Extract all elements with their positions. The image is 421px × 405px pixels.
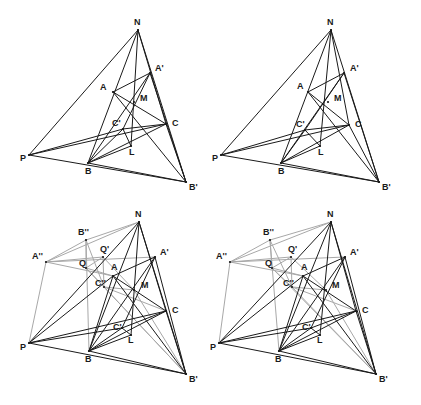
point-label-A: A — [301, 262, 308, 272]
segment-L-B — [89, 335, 131, 351]
vertex-P — [28, 154, 30, 156]
segment-P-Bp — [219, 343, 376, 374]
segment-N-L — [131, 30, 138, 146]
point-label-N: N — [135, 209, 142, 219]
point-label-A: A — [100, 82, 107, 92]
point-label-A: A — [111, 262, 118, 272]
vertex-C — [165, 310, 167, 312]
point-label-P: P — [20, 342, 26, 352]
segment-App-Bpp — [230, 240, 270, 262]
point-label-P: P — [212, 153, 218, 163]
vertex-C — [165, 123, 167, 125]
point-label-App: A'' — [32, 251, 43, 261]
vertex-Qp — [290, 256, 292, 258]
panel-top-left-canvas: NAA'MCC'LPBB' — [0, 0, 210, 202]
vertex-N — [330, 221, 332, 223]
vertex-M — [327, 101, 329, 103]
vertex-P — [220, 154, 222, 156]
vertex-App — [229, 261, 231, 263]
point-label-Cpp: C'' — [283, 278, 294, 288]
point-label-Ap: A' — [350, 63, 359, 73]
point-label-Cp: C' — [302, 322, 311, 332]
point-label-Qp: Q' — [100, 244, 109, 254]
segment-N-App — [230, 222, 331, 262]
point-label-B: B — [85, 354, 92, 364]
vertex-Bpp — [269, 239, 271, 241]
vertex-P — [28, 342, 30, 344]
point-label-P: P — [20, 153, 26, 163]
vertex-Ap — [344, 256, 346, 258]
point-label-Q: Q — [265, 258, 272, 268]
vertex-Ap — [149, 72, 151, 74]
vertex-A — [307, 91, 309, 93]
segment-Ap-B — [279, 257, 345, 351]
vertex-Qp — [102, 256, 104, 258]
vertex-Cp — [122, 128, 124, 130]
point-label-L: L — [128, 335, 134, 345]
segment-B-Bp — [281, 163, 379, 182]
point-label-C: C — [362, 305, 369, 315]
panel-top-left-labels: NAA'MCC'LPBB' — [20, 17, 198, 192]
point-label-Bp: B' — [379, 374, 388, 384]
segment-App-Ap — [46, 257, 155, 262]
panel-bottom-right-canvas: NB''A''Q'A'QAC''MCC'LPBB' — [210, 205, 421, 405]
point-label-P: P — [210, 342, 216, 352]
segment-C-B — [281, 125, 349, 163]
panel-bottom-left: NB''A''Q'A'QAC''MCC'LPBB' — [0, 205, 210, 405]
panel-top-left-primary-lines — [29, 30, 186, 182]
segment-A-Bp — [308, 92, 379, 182]
vertex-C — [355, 310, 357, 312]
segment-N-P — [219, 222, 331, 343]
segment-M-Bp — [134, 290, 186, 374]
geometry-figure-root: NAA'MCC'LPBB'NAA'MCC'LPBB'NB''A''Q'A'QAC… — [0, 0, 421, 405]
point-label-Cp: C' — [112, 118, 121, 128]
segment-C-Bp — [356, 311, 376, 374]
vertex-Cp — [304, 129, 306, 131]
panel-bottom-left-canvas: NB''A''Q'A'QAC''MCC'LPBB' — [0, 205, 210, 405]
point-label-N: N — [327, 209, 334, 219]
segment-Ap-B — [89, 257, 155, 351]
segment-A-C — [308, 92, 349, 125]
point-label-B: B — [275, 354, 282, 364]
segment-App-P — [219, 262, 230, 343]
segment-B-Bp — [88, 163, 186, 182]
vertex-Bp — [185, 181, 187, 183]
point-label-Cp: C' — [296, 119, 305, 129]
vertex-M — [133, 101, 135, 103]
point-label-A: A — [297, 81, 304, 91]
point-label-Bp: B' — [189, 182, 198, 192]
vertex-Bp — [378, 181, 380, 183]
panel-bottom-right: NB''A''Q'A'QAC''MCC'LPBB' — [210, 205, 421, 405]
vertex-N — [137, 29, 139, 31]
vertex-N — [138, 221, 140, 223]
segment-N-B — [88, 30, 138, 163]
segment-C-Bp — [166, 311, 186, 374]
vertex-B — [88, 350, 90, 352]
point-label-Q: Q — [79, 258, 86, 268]
vertex-B — [278, 350, 280, 352]
point-label-Bpp: B'' — [78, 227, 89, 237]
panel-top-right-primary-lines — [221, 30, 379, 182]
segment-A-Bp — [113, 92, 186, 182]
vertex-A — [112, 91, 114, 93]
segment-N-C — [139, 222, 166, 311]
point-label-C: C — [172, 305, 179, 315]
segment-Cp-L — [122, 328, 131, 335]
vertex-B — [280, 162, 282, 164]
vertex-Bp — [185, 373, 187, 375]
segment-P-C — [221, 125, 349, 155]
panel-top-left: NAA'MCC'LPBB' — [0, 0, 210, 202]
point-label-Bpp: B'' — [263, 227, 274, 237]
point-label-B: B — [85, 166, 92, 176]
point-label-App: A'' — [216, 251, 227, 261]
point-label-Bp: B' — [189, 374, 198, 384]
point-label-C: C — [172, 118, 179, 128]
segment-Ap-Bp — [345, 257, 376, 374]
segment-C-Cp — [123, 124, 166, 129]
segment-Ap-Bp — [155, 257, 186, 374]
segment-P-Bp — [29, 343, 186, 374]
segment-N-B — [281, 30, 331, 163]
vertex-P — [218, 342, 220, 344]
vertex-Ap — [343, 72, 345, 74]
point-label-Ap: A' — [160, 247, 169, 257]
